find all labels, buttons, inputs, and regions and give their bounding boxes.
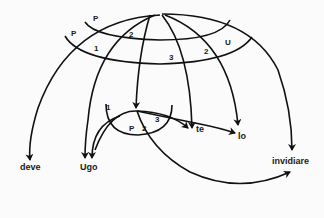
inner-label-1: 1	[106, 103, 111, 112]
latitude-arc-1	[85, 20, 230, 40]
label-2-right: 2	[204, 47, 209, 56]
label-3: 3	[169, 53, 174, 62]
word-invidiare: invidiare	[272, 156, 309, 166]
clitic-climbing-diagram: P P 1 2 3 2 U 1 P 2 3 deve Ugo te lo inv…	[0, 0, 324, 218]
word-ugo: Ugo	[80, 162, 98, 172]
label-p-inner: P	[71, 29, 77, 38]
inner-arc-to-lo	[137, 111, 235, 133]
label-2-left: 2	[129, 30, 134, 39]
inner-label-3: 3	[155, 115, 160, 124]
inner-label-2: 2	[142, 124, 147, 133]
meridian-center-right	[162, 15, 192, 128]
meridian-right	[165, 15, 238, 125]
meridian-center	[136, 15, 150, 108]
word-lo: lo	[238, 131, 247, 141]
word-deve: deve	[20, 162, 41, 172]
label-u: U	[225, 38, 231, 47]
word-te: te	[196, 124, 204, 134]
inner-arc-left	[106, 104, 172, 135]
label-1: 1	[94, 44, 99, 53]
meridian-outer-right	[162, 14, 292, 150]
arc-to-invidiare	[137, 111, 290, 184]
inner-arc-to-ugo	[92, 116, 120, 158]
label-p-outer: P	[93, 14, 99, 23]
inner-label-p: P	[129, 124, 135, 133]
